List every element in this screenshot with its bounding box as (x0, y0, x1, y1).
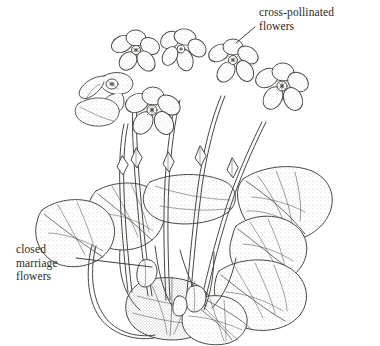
botanical-illustration-figure: cross-pollinated flowers closed marriage… (0, 0, 380, 346)
bract-left (75, 98, 119, 126)
flower-mid-left (122, 86, 184, 138)
leader-cross-pollinated (236, 27, 255, 43)
flower-right (252, 62, 312, 113)
violet-plant-drawing (0, 0, 380, 346)
flower-upper-right (205, 39, 261, 86)
label-cross-pollinated-flowers: cross-pollinated flowers (259, 6, 334, 33)
flower-top-left (109, 29, 163, 74)
flower-top-centre (157, 27, 210, 72)
label-closed-marriage-flowers: closed marriage flowers (16, 243, 58, 284)
